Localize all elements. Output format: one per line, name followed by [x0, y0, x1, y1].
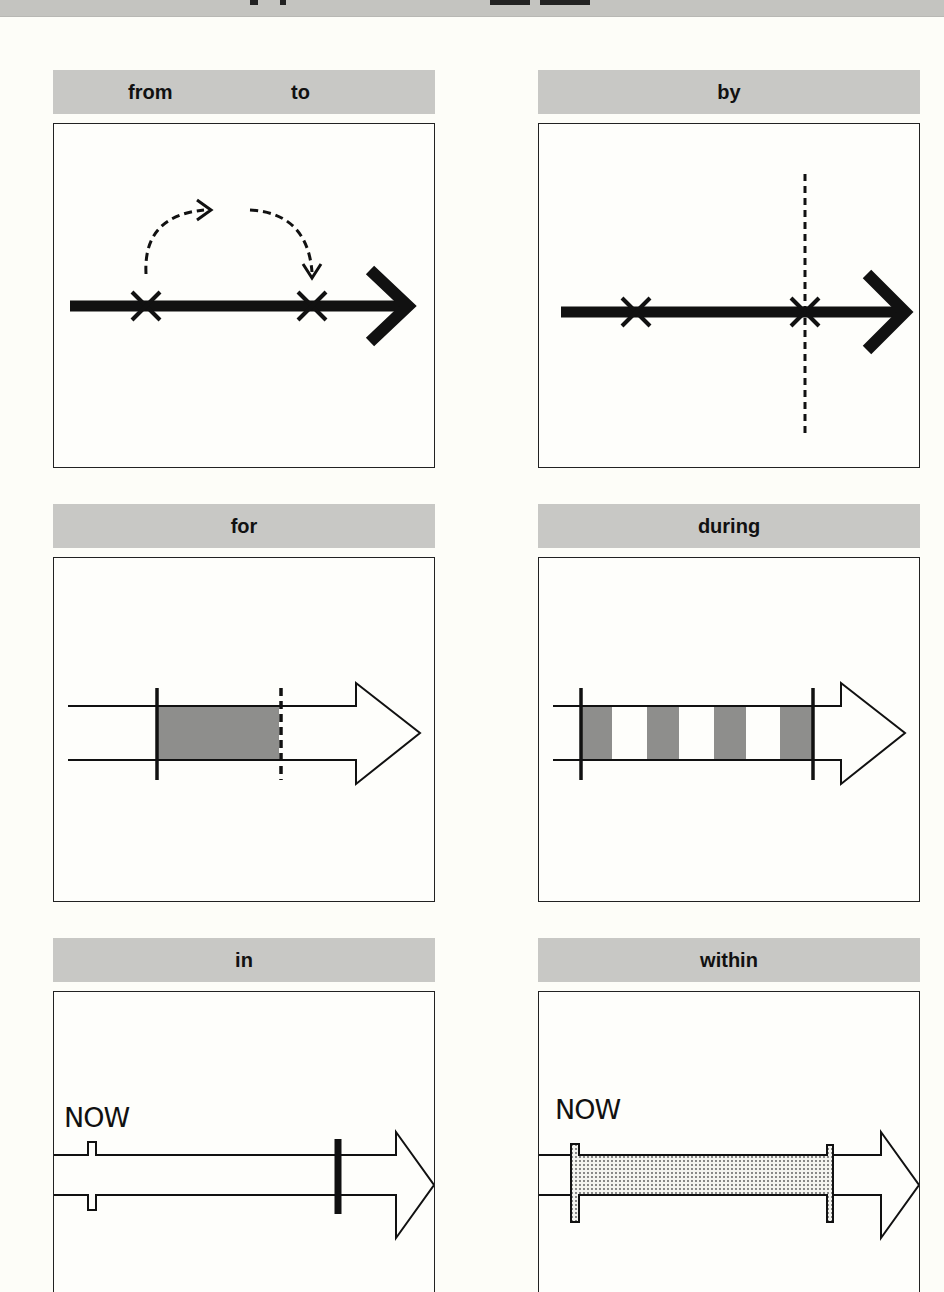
panel-header: by	[538, 70, 920, 114]
label-to: to	[291, 70, 310, 114]
panel-header: for	[53, 504, 435, 548]
from-to-timeline-diagram	[54, 124, 434, 467]
diagram-box	[538, 123, 920, 468]
label-during: during	[538, 504, 920, 548]
title-glyph-fragment	[280, 0, 286, 5]
in-timeline-diagram	[54, 992, 434, 1292]
panel-header: in	[53, 938, 435, 982]
for-timeline-diagram	[54, 558, 434, 901]
within-timeline-diagram	[539, 992, 919, 1292]
title-glyph-fragment	[540, 0, 590, 5]
by-timeline-diagram	[539, 124, 919, 467]
panel-header: during	[538, 504, 920, 548]
title-glyph-fragment	[490, 0, 530, 5]
diagram-box: NOW	[53, 991, 435, 1292]
label-from: from	[128, 70, 172, 114]
panel-header: from to	[53, 70, 435, 114]
during-timeline-diagram	[539, 558, 919, 901]
top-banner	[0, 0, 944, 17]
diagram-box: NOW	[538, 991, 920, 1292]
label-within: within	[538, 938, 920, 982]
diagram-box	[53, 123, 435, 468]
diagram-box	[53, 557, 435, 902]
title-glyph-fragment	[250, 0, 258, 5]
label-for: for	[53, 504, 435, 548]
diagram-box	[538, 557, 920, 902]
label-by: by	[538, 70, 920, 114]
panel-header: within	[538, 938, 920, 982]
label-in: in	[53, 938, 435, 982]
